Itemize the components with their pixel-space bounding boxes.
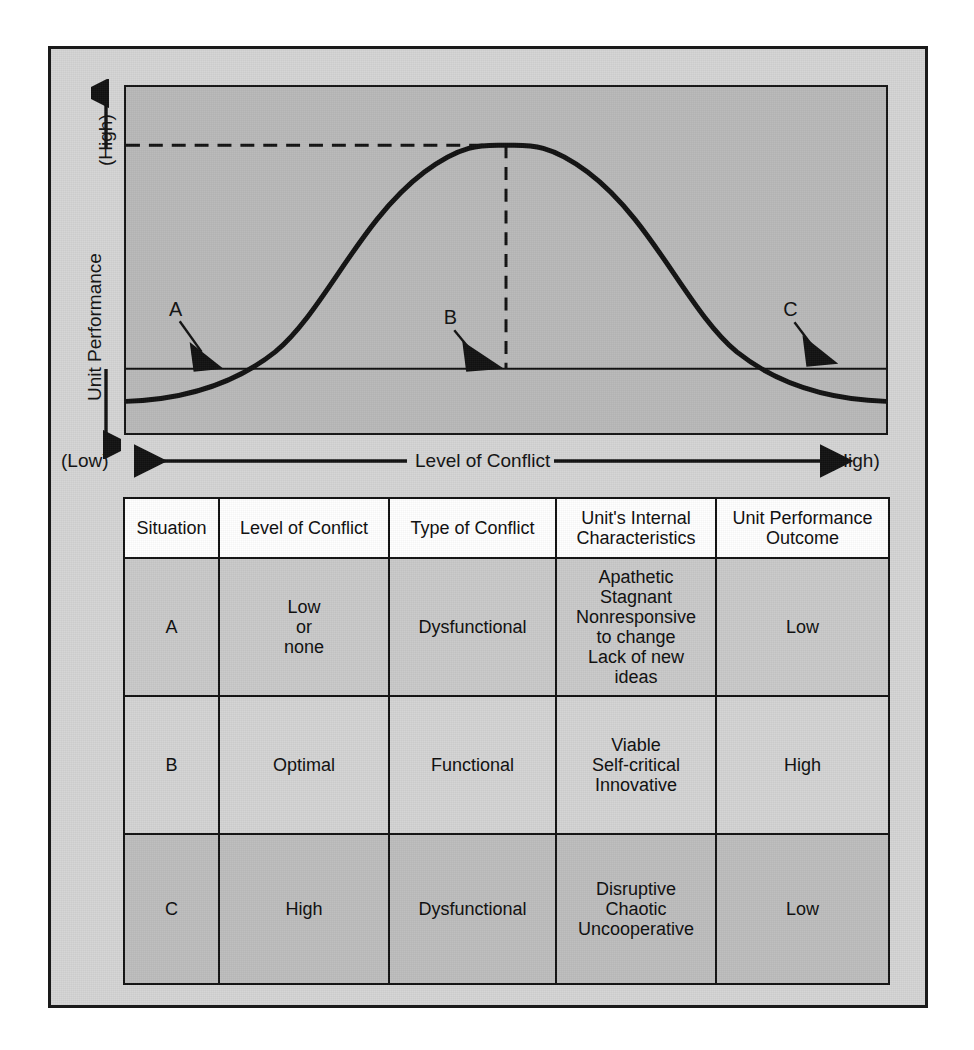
cell-line: Self-critical bbox=[559, 755, 713, 775]
cell-type-of-conflict: Dysfunctional bbox=[389, 558, 556, 696]
cell-line: to change bbox=[559, 627, 713, 647]
cell-internal-characteristics: Disruptive Chaotic Uncooperative bbox=[556, 834, 716, 984]
table-row: B Optimal Functional Viable Self-critica… bbox=[124, 696, 889, 834]
marker-a-annotation bbox=[180, 321, 224, 371]
cell-line: Nonresponsive bbox=[559, 607, 713, 627]
plot-area: A B C bbox=[124, 85, 888, 435]
y-axis-high-label: (High) bbox=[95, 114, 117, 166]
cell-line: none bbox=[222, 637, 386, 657]
cell-line: Innovative bbox=[559, 775, 713, 795]
table-row: C High Dysfunctional Disruptive Chaotic … bbox=[124, 834, 889, 984]
column-header-situation: Situation bbox=[124, 498, 219, 558]
marker-c-label: C bbox=[783, 298, 797, 320]
cell-line: Uncooperative bbox=[559, 919, 713, 939]
cell-internal-characteristics: Apathetic Stagnant Nonresponsive to chan… bbox=[556, 558, 716, 696]
x-axis: (Low) Level of Conflict (High) bbox=[57, 441, 925, 481]
cell-level-of-conflict: Optimal bbox=[219, 696, 389, 834]
plot-svg: A B C bbox=[126, 87, 886, 433]
column-header-type-of-conflict: Type of Conflict bbox=[389, 498, 556, 558]
marker-b-label: B bbox=[444, 306, 457, 328]
marker-c-annotation bbox=[794, 322, 838, 366]
cell-line: or bbox=[222, 617, 386, 637]
table-header-row: Situation Level of Conflict Type of Conf… bbox=[124, 498, 889, 558]
table-row: A Low or none Dysfunctional Apathetic St… bbox=[124, 558, 889, 696]
figure-page: (High) Unit Performance bbox=[0, 0, 974, 1050]
cell-line: Lack of new bbox=[559, 647, 713, 667]
column-header-level-of-conflict: Level of Conflict bbox=[219, 498, 389, 558]
cell-situation: A bbox=[124, 558, 219, 696]
header-line-1: Type of bbox=[410, 518, 469, 538]
cell-line: Low bbox=[222, 597, 386, 617]
column-header-performance-outcome: Unit Performance Outcome bbox=[716, 498, 889, 558]
marker-b-annotation bbox=[454, 330, 504, 372]
y-axis-title: Unit Performance bbox=[84, 253, 106, 401]
cell-level-of-conflict: High bbox=[219, 834, 389, 984]
header-line-1: Unit's Internal bbox=[581, 508, 691, 528]
cell-level-of-conflict: Low or none bbox=[219, 558, 389, 696]
header-line-1: Unit Performance bbox=[732, 508, 872, 528]
cell-situation: C bbox=[124, 834, 219, 984]
x-axis-high-label: (High) bbox=[828, 450, 880, 472]
header-line-2: Conflict bbox=[308, 518, 368, 538]
cell-line: Disruptive bbox=[559, 879, 713, 899]
figure-outer-frame: (High) Unit Performance bbox=[48, 46, 928, 1008]
cell-line: Viable bbox=[559, 735, 713, 755]
column-header-internal-characteristics: Unit's Internal Characteristics bbox=[556, 498, 716, 558]
cell-line: Optimal bbox=[222, 755, 386, 775]
cell-line: Apathetic bbox=[559, 567, 713, 587]
header-line-2: Outcome bbox=[766, 528, 839, 548]
cell-performance-outcome: Low bbox=[716, 834, 889, 984]
x-axis-title: Level of Conflict bbox=[415, 450, 550, 472]
header-line-2: Conflict bbox=[475, 518, 535, 538]
cell-line: High bbox=[222, 899, 386, 919]
cell-type-of-conflict: Dysfunctional bbox=[389, 834, 556, 984]
x-axis-low-label: (Low) bbox=[61, 450, 109, 472]
cell-line: ideas bbox=[559, 667, 713, 687]
cell-line: Chaotic bbox=[559, 899, 713, 919]
header-line-1: Level of bbox=[240, 518, 303, 538]
y-axis: (High) Unit Performance bbox=[57, 71, 123, 461]
cell-internal-characteristics: Viable Self-critical Innovative bbox=[556, 696, 716, 834]
cell-line: Stagnant bbox=[559, 587, 713, 607]
conflict-performance-chart: (High) Unit Performance bbox=[51, 49, 931, 489]
cell-type-of-conflict: Functional bbox=[389, 696, 556, 834]
marker-a-label: A bbox=[169, 298, 183, 320]
cell-performance-outcome: High bbox=[716, 696, 889, 834]
cell-situation: B bbox=[124, 696, 219, 834]
header-line-1: Situation bbox=[136, 518, 206, 538]
cell-performance-outcome: Low bbox=[716, 558, 889, 696]
header-line-2: Characteristics bbox=[576, 528, 695, 548]
conflict-situations-table: Situation Level of Conflict Type of Conf… bbox=[123, 497, 890, 985]
